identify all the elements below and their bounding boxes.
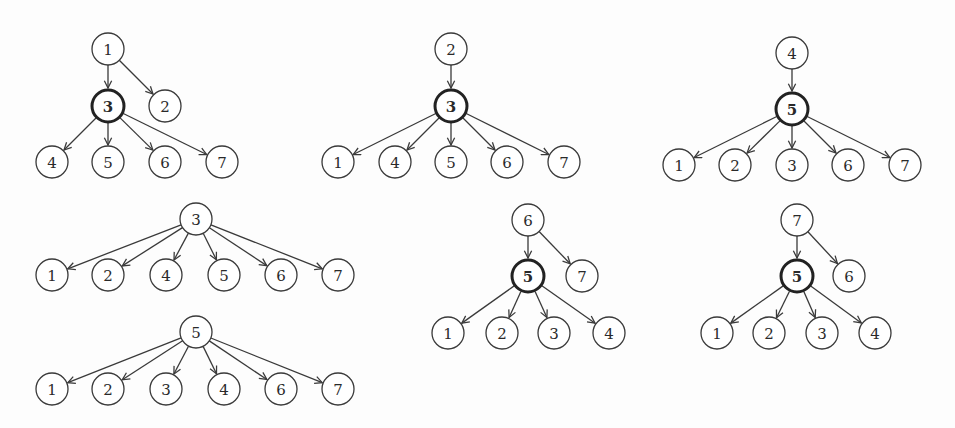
node-label: 3: [817, 325, 827, 343]
node-label: 7: [333, 267, 343, 285]
tree-node: 4: [776, 37, 808, 69]
tree-node: 2: [719, 149, 751, 181]
node-label: 3: [446, 98, 456, 116]
tree-node: 4: [208, 373, 240, 405]
node-label: 6: [523, 212, 533, 230]
node-label: 6: [843, 157, 853, 175]
edge-arrow: [808, 232, 838, 264]
tree-node: 5: [92, 146, 124, 178]
node-label: 3: [191, 211, 201, 229]
node-label: 2: [446, 41, 456, 59]
node-label: 5: [446, 154, 456, 172]
tree-diagram: 1324567231456745123673124567512346765712…: [0, 0, 955, 428]
tree-node: 5: [781, 260, 813, 292]
tree-node: 1: [432, 317, 464, 349]
tree-node: 7: [781, 204, 813, 236]
edge-arrow: [120, 118, 153, 150]
node-label: 2: [730, 157, 740, 175]
node-label: 1: [443, 325, 453, 343]
node-label: 4: [787, 45, 797, 63]
edge-arrow: [804, 292, 815, 318]
tree-node: 3: [806, 317, 838, 349]
node-label: 7: [333, 381, 343, 399]
node-label: 7: [559, 154, 569, 172]
tree-node: 6: [833, 260, 865, 292]
node-label: 6: [844, 268, 854, 286]
edge-arrow: [804, 121, 836, 153]
tree-e: 5123467: [36, 316, 354, 405]
tree-node: 5: [435, 146, 467, 178]
tree-node: 4: [36, 146, 68, 178]
edge-arrow: [203, 233, 216, 259]
tree-node: 4: [379, 146, 411, 178]
tree-node: 4: [593, 317, 625, 349]
node-label: 5: [219, 267, 229, 285]
node-label: 6: [502, 154, 512, 172]
node-label: 5: [191, 324, 201, 342]
tree-node: 2: [92, 259, 124, 291]
tree-f: 6571234: [432, 204, 625, 349]
node-label: 3: [787, 157, 797, 175]
tree-node: 7: [322, 259, 354, 291]
node-label: 4: [47, 154, 57, 172]
tree-node: 4: [150, 259, 182, 291]
tree-node: 2: [435, 33, 467, 65]
node-label: 3: [549, 325, 559, 343]
node-label: 2: [160, 98, 170, 116]
node-label: 6: [276, 267, 286, 285]
node-label: 1: [674, 157, 684, 175]
tree-node: 6: [512, 204, 544, 236]
edge-arrow: [535, 292, 547, 318]
tree-node: 7: [548, 146, 580, 178]
tree-node: 5: [512, 260, 544, 292]
node-label: 4: [390, 154, 400, 172]
node-label: 2: [103, 267, 113, 285]
node-label: 6: [160, 154, 170, 172]
tree-node: 1: [36, 373, 68, 405]
node-label: 1: [47, 381, 57, 399]
tree-diagram-canvas: 1324567231456745123673124567512346765712…: [0, 0, 955, 428]
tree-node: 3: [776, 149, 808, 181]
tree-node: 1: [92, 33, 124, 65]
node-label: 5: [103, 154, 113, 172]
tree-node: 5: [776, 93, 808, 125]
tree-node: 1: [322, 146, 354, 178]
tree-node: 6: [265, 373, 297, 405]
edge-arrow: [731, 286, 783, 323]
edge-arrow: [407, 118, 439, 150]
node-label: 4: [604, 325, 614, 343]
tree-node: 3: [92, 90, 124, 122]
node-label: 4: [870, 325, 880, 343]
node-label: 7: [217, 154, 227, 172]
node-label: 1: [103, 41, 113, 59]
edge-arrow: [747, 121, 780, 153]
node-label: 1: [47, 267, 57, 285]
tree-node: 4: [859, 317, 891, 349]
tree-node: 5: [208, 259, 240, 291]
node-label: 1: [712, 325, 722, 343]
node-label: 1: [333, 154, 343, 172]
tree-d: 3124567: [36, 203, 354, 291]
tree-node: 5: [180, 316, 212, 348]
edge-arrow: [174, 233, 188, 260]
tree-node: 6: [149, 146, 181, 178]
node-label: 6: [276, 381, 286, 399]
tree-g: 7561234: [701, 204, 891, 349]
edge-arrow: [64, 118, 96, 150]
node-label: 5: [792, 268, 802, 286]
tree-node: 7: [206, 146, 238, 178]
node-label: 2: [497, 325, 507, 343]
node-label: 4: [161, 267, 171, 285]
tree-node: 2: [149, 90, 181, 122]
tree-node: 6: [491, 146, 523, 178]
tree-node: 6: [832, 149, 864, 181]
tree-node: 6: [265, 259, 297, 291]
node-label: 7: [900, 157, 910, 175]
tree-a: 1324567: [36, 33, 238, 178]
edge-arrow: [122, 341, 182, 380]
edge-arrow: [509, 292, 521, 318]
tree-node: 7: [566, 260, 598, 292]
tree-node: 3: [435, 90, 467, 122]
node-label: 3: [161, 381, 171, 399]
tree-node: 3: [150, 373, 182, 405]
